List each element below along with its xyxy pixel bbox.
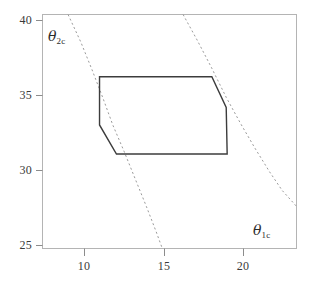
- y-axis-title-subscript: 2c: [56, 36, 65, 46]
- xtick-label-10: 10: [78, 259, 90, 274]
- xtick-label-15: 15: [158, 259, 170, 274]
- chart-figure: 40 35 30 25 10 15 20 θ2c θ1c: [0, 0, 313, 283]
- plot-frame: [43, 15, 297, 249]
- ytick-label-35: 35: [8, 88, 32, 103]
- y-axis-title: θ2c: [48, 28, 65, 45]
- axes-frame: [43, 15, 297, 249]
- ytick-label-40: 40: [8, 13, 32, 28]
- left-dashed-curve: [68, 15, 162, 249]
- ytick-label-30: 30: [8, 163, 32, 178]
- x-axis-title-subscript: 1c: [261, 230, 270, 240]
- ytick-label-25: 25: [8, 238, 32, 253]
- data-series-group: [68, 15, 296, 249]
- plot-canvas: [0, 0, 313, 283]
- x-axis-title: θ1c: [253, 222, 270, 239]
- right-dashed-curve: [183, 15, 296, 207]
- confidence-region-polygon: [100, 77, 228, 154]
- y-axis-ticks: [36, 21, 43, 246]
- x-axis-ticks: [85, 249, 244, 257]
- xtick-label-20: 20: [237, 259, 249, 274]
